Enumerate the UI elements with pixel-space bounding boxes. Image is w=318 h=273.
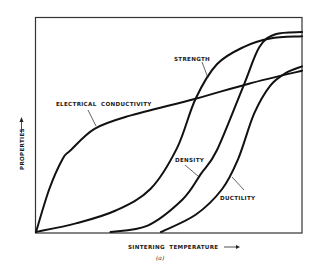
figure-caption: (a) (156, 254, 165, 261)
x-axis-label: SINTERING TEMPERATURE (128, 244, 218, 250)
plot-frame (36, 18, 303, 234)
label-ductility: DUCTILITY (220, 195, 256, 201)
x-axis-arrow-icon (224, 245, 240, 249)
curve-electrical-conductivity (36, 71, 302, 232)
curves-group (36, 32, 302, 232)
curve-ductility (161, 66, 302, 232)
label-strength: STRENGTH (174, 56, 210, 62)
label-electrical-conductivity: ELECTRICAL CONDUCTIVITY (56, 101, 152, 107)
y-axis-label: PROPERTIES (19, 128, 25, 170)
sintering-properties-chart: ELECTRICAL CONDUCTIVITY STRENGTH DENSITY… (0, 0, 318, 273)
label-density: DENSITY (175, 157, 205, 163)
curve-strength (36, 36, 302, 232)
leader-ductility (232, 177, 244, 190)
leader-density (185, 165, 198, 176)
curve-density (111, 32, 303, 232)
leader-electrical-conductivity (88, 110, 96, 126)
leader-strength (202, 62, 208, 78)
